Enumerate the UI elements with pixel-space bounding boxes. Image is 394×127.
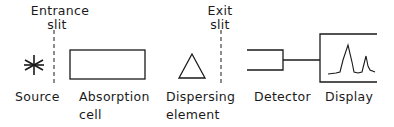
dispersing-element-label: Dispersing element <box>166 90 235 122</box>
source-label: Source <box>15 90 60 104</box>
detector-label: Detector <box>254 90 311 104</box>
entrance-slit-label: Entrance slit <box>28 4 92 32</box>
detector-shape <box>247 50 320 70</box>
exit-slit-label: Exit slit <box>200 4 240 32</box>
display-label: Display <box>325 90 373 104</box>
display-box <box>320 34 377 82</box>
absorption-cell-label: Absorption cell <box>79 90 150 122</box>
asterisk-icon <box>24 55 44 75</box>
absorption-cell-box <box>70 50 145 79</box>
triangle-icon <box>179 54 205 78</box>
spectrum-peaks-icon <box>328 45 375 74</box>
